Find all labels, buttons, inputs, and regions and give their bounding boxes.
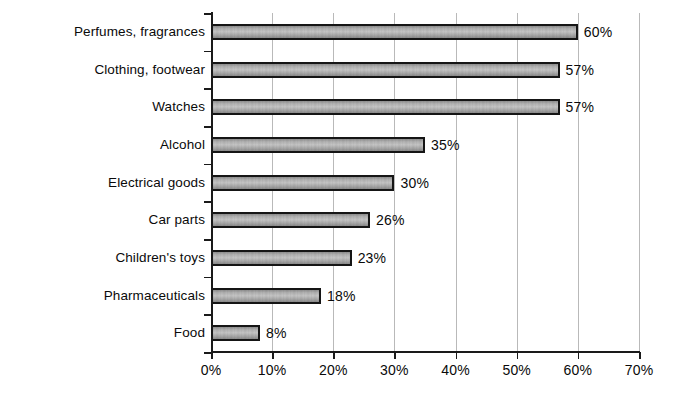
- y-axis-tick: [204, 352, 212, 354]
- bar-chart: Perfumes, fragrancesClothing, footwearWa…: [0, 0, 681, 413]
- bar: [211, 137, 425, 153]
- y-axis-tick: [204, 164, 212, 166]
- y-axis-tick: [204, 88, 212, 90]
- x-axis-tick-label: 50%: [502, 361, 531, 379]
- x-axis-tick: [272, 352, 274, 359]
- category-label: Perfumes, fragrances: [0, 24, 205, 40]
- x-axis-tick-label: 10%: [258, 361, 287, 379]
- y-axis-tick: [204, 239, 212, 241]
- category-label: Alcohol: [0, 137, 205, 153]
- x-axis-tick: [456, 352, 458, 359]
- y-axis-category-labels: Perfumes, fragrancesClothing, footwearWa…: [0, 13, 205, 352]
- y-axis-tick: [204, 13, 212, 15]
- y-axis-tick: [204, 201, 212, 203]
- bar-value-label: 30%: [400, 175, 429, 191]
- bar-value-label: 26%: [376, 212, 405, 228]
- x-axis-tick-label: 60%: [564, 361, 593, 379]
- x-axis-tick: [333, 352, 335, 359]
- bar: [211, 212, 370, 228]
- bar: [211, 99, 560, 115]
- category-label: Children's toys: [0, 250, 205, 266]
- bar-value-label: 35%: [431, 137, 460, 153]
- category-label: Electrical goods: [0, 175, 205, 191]
- bar-value-label: 8%: [266, 325, 287, 341]
- category-label: Pharmaceuticals: [0, 288, 205, 304]
- y-axis-tick: [204, 126, 212, 128]
- bar-value-label: 57%: [566, 99, 595, 115]
- bar: [211, 288, 321, 304]
- bar: [211, 250, 352, 266]
- y-axis-line: [211, 12, 213, 353]
- bar: [211, 175, 394, 191]
- gridline-70: [639, 13, 640, 352]
- x-axis-tick: [639, 352, 641, 359]
- x-axis-tick-label: 70%: [625, 361, 654, 379]
- bar-value-label: 23%: [358, 250, 387, 266]
- bar: [211, 62, 560, 78]
- category-label: Food: [0, 325, 205, 341]
- x-axis-line: [211, 351, 640, 353]
- y-axis-tick: [204, 277, 212, 279]
- category-label: Clothing, footwear: [0, 62, 205, 78]
- x-axis-tick: [517, 352, 519, 359]
- bar-value-label: 57%: [566, 62, 595, 78]
- y-axis-tick: [204, 51, 212, 53]
- category-label: Watches: [0, 99, 205, 115]
- bar: [211, 24, 578, 40]
- y-axis-tick: [204, 314, 212, 316]
- x-axis-tick-label: 40%: [441, 361, 470, 379]
- bar: [211, 325, 260, 341]
- x-axis-tick-label: 30%: [380, 361, 409, 379]
- bar-value-label: 60%: [584, 24, 613, 40]
- category-label: Car parts: [0, 212, 205, 228]
- x-axis-tick-label: 20%: [319, 361, 348, 379]
- bar-value-label: 18%: [327, 288, 356, 304]
- x-axis-tick-label: 0%: [201, 361, 222, 379]
- x-axis-tick: [394, 352, 396, 359]
- x-axis-tick: [578, 352, 580, 359]
